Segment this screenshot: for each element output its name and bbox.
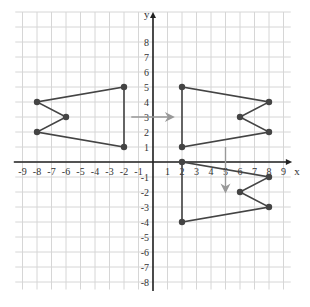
- vertex-point: [266, 204, 272, 210]
- vertex-point: [34, 129, 40, 135]
- x-tick-label: -7: [47, 166, 55, 177]
- vertex-point: [179, 159, 185, 165]
- y-tick-label: -4: [141, 217, 149, 228]
- y-tick-label: -7: [141, 262, 149, 273]
- y-tick-label: -8: [141, 277, 149, 288]
- vertex-point: [266, 174, 272, 180]
- vertex-point: [266, 99, 272, 105]
- y-axis-arrow-icon: [150, 12, 156, 18]
- y-tick-label: 1: [144, 142, 149, 153]
- y-tick-label: -3: [141, 202, 149, 213]
- y-tick-label: 4: [144, 97, 149, 108]
- vertex-point: [237, 114, 243, 120]
- x-tick-label: -6: [62, 166, 70, 177]
- x-tick-label: -3: [105, 166, 113, 177]
- vertex-point: [266, 129, 272, 135]
- x-axis-label: x: [294, 165, 300, 177]
- x-tick-label: -9: [18, 166, 26, 177]
- y-tick-label: -5: [141, 232, 149, 243]
- y-tick-label: 7: [144, 52, 149, 63]
- vertex-point: [34, 99, 40, 105]
- y-axis-label: y: [144, 8, 150, 20]
- vertex-point: [63, 114, 69, 120]
- vertex-point: [179, 144, 185, 150]
- vertex-point: [237, 189, 243, 195]
- x-tick-label: 9: [281, 166, 286, 177]
- vertex-point: [179, 219, 185, 225]
- y-tick-label: -6: [141, 247, 149, 258]
- vertex-point: [121, 144, 127, 150]
- vertex-point: [179, 84, 185, 90]
- x-tick-label: -5: [76, 166, 84, 177]
- x-tick-label: -8: [33, 166, 41, 177]
- axes: [14, 12, 292, 291]
- y-tick-label: -2: [141, 187, 149, 198]
- x-tick-label: -2: [120, 166, 128, 177]
- y-tick-label: 5: [144, 82, 149, 93]
- x-axis-arrow-icon: [286, 159, 292, 165]
- x-tick-label: 3: [194, 166, 199, 177]
- y-tick-label: -1: [141, 172, 149, 183]
- x-tick-label: -4: [91, 166, 99, 177]
- y-tick-label: 8: [144, 37, 149, 48]
- tick-labels: -9-8-7-6-5-4-3-2-1123456789-8-7-6-5-4-3-…: [18, 8, 300, 289]
- x-tick-label: 1: [165, 166, 170, 177]
- y-tick-label: 2: [144, 127, 149, 138]
- vertex-point: [121, 84, 127, 90]
- y-tick-label: 6: [144, 67, 149, 78]
- coordinate-plane: -9-8-7-6-5-4-3-2-1123456789-8-7-6-5-4-3-…: [0, 0, 310, 307]
